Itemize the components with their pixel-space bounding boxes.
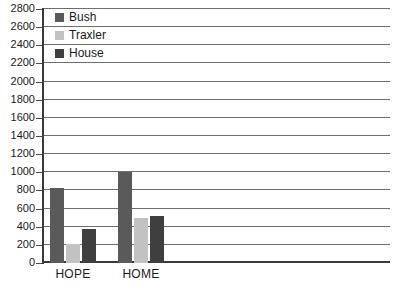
bar-house-hope <box>82 229 96 263</box>
y-axis-tick <box>36 263 42 264</box>
y-axis-tick-label: 1600 <box>1 112 35 123</box>
y-axis-tick-label: 1800 <box>1 94 35 105</box>
legend-swatch-icon <box>55 31 64 40</box>
y-axis-tick-label: 600 <box>1 203 35 214</box>
y-axis-tick-label: 400 <box>1 221 35 232</box>
y-axis-tick-label: 0 <box>1 257 35 268</box>
legend-label: House <box>69 46 104 60</box>
y-axis-tick-label: 2400 <box>1 39 35 50</box>
y-axis-tick-label: 2000 <box>1 76 35 87</box>
legend-item-bush: Bush <box>55 8 167 26</box>
y-axis-labels: 0200400600800100012001400160018002000220… <box>0 0 35 286</box>
bar-traxler-hope <box>66 244 80 263</box>
bar-traxler-home <box>134 218 148 263</box>
legend-label: Traxler <box>69 28 106 42</box>
bar-bush-home <box>118 172 132 263</box>
y-axis-tick-label: 2200 <box>1 57 35 68</box>
bar-house-home <box>150 216 164 263</box>
y-axis-tick-label: 1000 <box>1 166 35 177</box>
legend-item-house: House <box>55 44 167 62</box>
y-axis-tick-label: 2800 <box>1 3 35 14</box>
y-axis-tick-label: 200 <box>1 239 35 250</box>
x-axis-label-hope: HOPE <box>36 267 110 281</box>
bar-chart: 0200400600800100012001400160018002000220… <box>0 0 395 286</box>
x-axis-label-home: HOME <box>104 267 178 281</box>
y-axis-tick-label: 800 <box>1 184 35 195</box>
y-axis-tick-label: 1200 <box>1 148 35 159</box>
legend-item-traxler: Traxler <box>55 26 167 44</box>
legend-swatch-icon <box>55 13 64 22</box>
y-axis-tick-label: 1400 <box>1 130 35 141</box>
legend: BushTraxlerHouse <box>55 8 167 62</box>
legend-label: Bush <box>69 10 96 24</box>
bar-bush-hope <box>50 188 64 263</box>
legend-swatch-icon <box>55 49 64 58</box>
y-axis-tick-label: 2600 <box>1 21 35 32</box>
